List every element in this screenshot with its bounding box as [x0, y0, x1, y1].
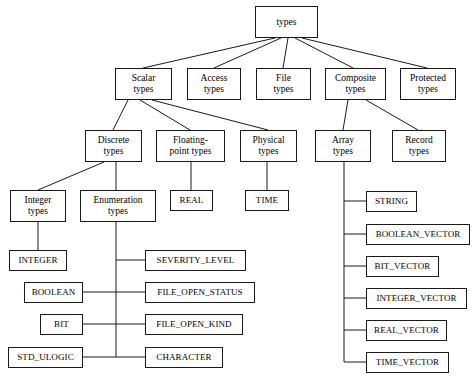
- node-time-label: TIME: [256, 195, 278, 205]
- node-types-label: types: [276, 17, 296, 28]
- node-scalar-types-label: Scalar types: [132, 73, 156, 94]
- node-boolean-label: BOOLEAN: [32, 287, 76, 297]
- node-string[interactable]: STRING: [366, 191, 417, 212]
- node-access-types-label: Access types: [201, 73, 228, 94]
- edge-scalar-to-discrete: [113, 100, 128, 130]
- node-integer[interactable]: INTEGER: [9, 250, 67, 271]
- node-floating-point-types-label: Floating- point types: [170, 135, 212, 156]
- node-bit-label: BIT: [54, 319, 69, 329]
- node-real-vector-label: REAL_VECTOR: [374, 325, 439, 335]
- node-string-label: STRING: [375, 196, 408, 206]
- type-hierarchy-diagram: types Scalar types Access types File typ…: [0, 0, 475, 381]
- node-std-ulogic[interactable]: STD_ULOGIC: [8, 347, 83, 368]
- edge-types-to-scalar: [143, 38, 275, 68]
- node-integer-types-label: Integer types: [25, 195, 52, 216]
- edge-composite-to-record: [366, 100, 418, 130]
- node-discrete-types[interactable]: Discrete types: [85, 130, 142, 162]
- node-floating-point-types[interactable]: Floating- point types: [156, 130, 225, 162]
- node-file-open-kind[interactable]: FILE_OPEN_KIND: [145, 314, 243, 335]
- node-file-types[interactable]: File types: [256, 68, 311, 100]
- node-enumeration-types[interactable]: Enumeration types: [80, 190, 156, 222]
- edge-types-to-access: [214, 38, 281, 68]
- node-discrete-types-label: Discrete types: [98, 135, 130, 156]
- node-physical-types-label: Physical types: [252, 135, 284, 156]
- node-array-types[interactable]: Array types: [315, 130, 371, 162]
- node-physical-types[interactable]: Physical types: [240, 130, 297, 162]
- node-real-vector[interactable]: REAL_VECTOR: [366, 320, 447, 341]
- edge-types-to-file: [283, 38, 288, 68]
- node-record-types[interactable]: Record types: [392, 130, 446, 162]
- node-time-vector[interactable]: TIME_VECTOR: [366, 352, 449, 373]
- node-std-ulogic-label: STD_ULOGIC: [17, 352, 74, 362]
- node-composite-types-label: Composite types: [335, 73, 376, 94]
- node-file-open-status-label: FILE_OPEN_STATUS: [157, 287, 242, 297]
- node-types[interactable]: types: [255, 6, 318, 38]
- node-enumeration-types-label: Enumeration types: [93, 195, 142, 216]
- node-file-open-kind-label: FILE_OPEN_KIND: [156, 319, 231, 329]
- node-boolean-vector[interactable]: BOOLEAN_VECTOR: [366, 224, 470, 245]
- node-time[interactable]: TIME: [245, 190, 289, 211]
- node-bit-vector[interactable]: BIT_VECTOR: [366, 256, 439, 277]
- node-composite-types[interactable]: Composite types: [325, 68, 386, 100]
- edge-scalar-to-physical: [152, 100, 268, 130]
- node-character[interactable]: CHARACTER: [145, 347, 223, 368]
- node-array-types-label: Array types: [332, 135, 354, 156]
- node-severity-level[interactable]: SEVERITY_LEVEL: [145, 250, 246, 271]
- node-file-types-label: File types: [273, 73, 293, 94]
- edge-composite-to-array: [343, 100, 348, 130]
- node-character-label: CHARACTER: [156, 352, 211, 362]
- node-integer-label: INTEGER: [18, 255, 57, 265]
- node-scalar-types[interactable]: Scalar types: [115, 68, 172, 100]
- node-integer-vector-label: INTEGER_VECTOR: [376, 293, 456, 303]
- node-time-vector-label: TIME_VECTOR: [376, 357, 439, 367]
- node-bit[interactable]: BIT: [40, 314, 83, 335]
- node-real[interactable]: REAL: [170, 190, 213, 211]
- node-file-open-status[interactable]: FILE_OPEN_STATUS: [145, 282, 255, 303]
- node-record-types-label: Record types: [405, 135, 432, 156]
- node-boolean-vector-label: BOOLEAN_VECTOR: [376, 229, 461, 239]
- edge-discrete-to-integer: [38, 162, 104, 190]
- node-protected-types-label: Protected types: [410, 73, 446, 94]
- node-real-label: REAL: [180, 195, 204, 205]
- node-integer-vector[interactable]: INTEGER_VECTOR: [366, 288, 467, 309]
- edge-types-to-composite: [295, 38, 353, 68]
- node-bit-vector-label: BIT_VECTOR: [375, 261, 431, 271]
- node-protected-types[interactable]: Protected types: [400, 68, 456, 100]
- node-integer-types[interactable]: Integer types: [10, 190, 66, 222]
- edge-scalar-to-floating-point: [140, 100, 190, 130]
- edge-types-to-protected: [302, 38, 427, 68]
- node-access-types[interactable]: Access types: [187, 68, 241, 100]
- node-severity-level-label: SEVERITY_LEVEL: [157, 255, 235, 265]
- node-boolean[interactable]: BOOLEAN: [24, 282, 83, 303]
